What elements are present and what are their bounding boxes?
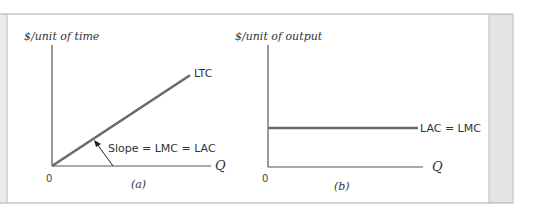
right-side-strip (489, 14, 513, 203)
panel-a-panel-label: (a) (131, 178, 146, 191)
panel-a-slope-annotation: Slope = LMC = LAC (108, 142, 216, 155)
figure: $/unit of time LTC Slope = LMC = LAC 0 Q… (0, 0, 533, 215)
panel-b-xlabel: Q (432, 159, 443, 174)
panel-a: $/unit of time LTC Slope = LMC = LAC 0 Q… (24, 30, 226, 191)
left-side-strip (0, 14, 7, 203)
panel-b-panel-label: (b) (334, 180, 350, 193)
panel-a-annotation-arrowhead (94, 140, 101, 147)
panel-b-lac-lmc-label: LAC = LMC (420, 122, 481, 135)
panel-a-xlabel: Q (215, 158, 226, 173)
panel-a-origin-label: 0 (46, 173, 52, 184)
panel-a-ltc-label: LTC (194, 67, 213, 80)
panel-b-origin-label: 0 (262, 173, 268, 184)
panel-b-ylabel: $/unit of output (235, 30, 323, 43)
panel-b: $/unit of output LAC = LMC 0 Q (b) (235, 30, 481, 193)
panel-a-ylabel: $/unit of time (24, 30, 100, 43)
